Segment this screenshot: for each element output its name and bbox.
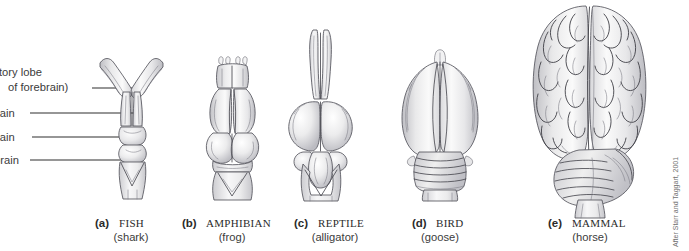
mammal-brainstem	[575, 200, 605, 218]
label-hindbrain-text: brain	[0, 154, 19, 166]
caption-bird-common: (goose)	[421, 231, 459, 243]
fish-hindbrain	[119, 145, 147, 164]
caption-amphibian-group: AMPHIBIAN	[206, 217, 271, 229]
frog-olfactory-bulbs	[217, 64, 249, 88]
comparative-brain-figure: tory lobe of forebrain) rain rain brain	[0, 0, 689, 251]
caption-bird-letter: (d)	[412, 217, 427, 229]
caption-fish-common: (shark)	[114, 231, 149, 243]
caption-bird-group: BIRD	[436, 217, 463, 229]
label-olfactory-lobe-line2: of forebrain)	[8, 81, 69, 93]
caption-reptile-group: REPTILE	[318, 217, 364, 229]
caption-mammal-common: (horse)	[572, 231, 608, 243]
caption-fish-group: FISH	[119, 217, 144, 229]
bird-brainstem	[422, 190, 457, 201]
caption-mammal-group: MAMMAL	[572, 217, 626, 229]
caption-reptile-letter: (c)	[294, 217, 308, 229]
caption-reptile-common: (alligator)	[312, 231, 359, 243]
fish-midbrain	[119, 127, 146, 146]
source-credit: After Starr and Taggart, 2001	[672, 157, 680, 247]
label-olfactory-lobe-line1: tory lobe	[0, 66, 42, 78]
label-forebrain-text: rain	[0, 107, 15, 119]
caption-amphibian-letter: (b)	[182, 217, 197, 229]
caption-amphibian-common: (frog)	[219, 231, 246, 243]
fish-forebrain-tract-right	[133, 92, 142, 126]
frog-optic-lobe-right	[231, 133, 258, 163]
frog-optic-lobe-left	[206, 133, 233, 163]
caption-mammal-letter: (e)	[548, 217, 562, 229]
caption-fish-letter: (a)	[95, 217, 109, 229]
label-midbrain-text: rain	[0, 131, 15, 143]
